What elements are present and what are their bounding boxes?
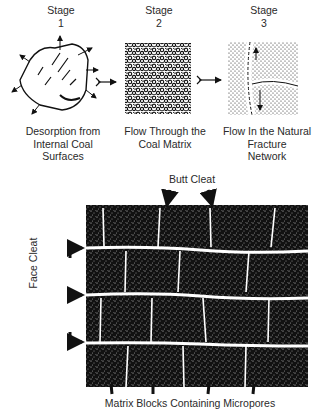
face-cleat-arrow-icon [70,332,82,342]
flow-arrow-icon [197,76,221,84]
butt-cleat-arrow-icon [208,190,212,205]
flow-arrow-icon [96,78,116,86]
stage-2-matrix-icon [125,43,191,114]
butt-cleat-arrow-icon [167,190,170,205]
stage-3-fracture-icon [228,42,298,115]
matrix-pointer-icon [111,384,112,394]
matrix-pointer-icon [208,384,209,394]
face-cleat-arrow-icon [70,248,82,258]
coal-cleat-block [86,205,308,387]
diagram-graphics [0,0,321,413]
stage-1-particle-icon [12,36,98,114]
matrix-pointer-icon [253,384,254,394]
